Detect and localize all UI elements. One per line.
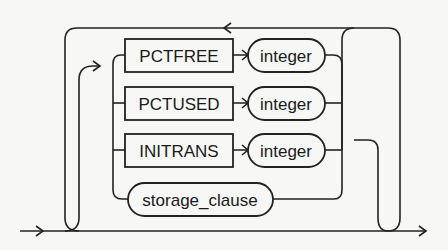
initrans-integer-label: integer: [260, 142, 312, 161]
pctfree-integer-label: integer: [260, 47, 312, 66]
syntax-diagram: PCTFREE integer PCTUSED integer INITRANS…: [0, 0, 448, 250]
choice-left-rail: [113, 55, 128, 199]
arrow-icon: [233, 50, 248, 60]
pctfree-label: PCTFREE: [139, 47, 218, 66]
storage-clause-label: storage_clause: [142, 191, 257, 210]
arrow-icon: [233, 98, 248, 108]
main-return-rail: [354, 140, 388, 231]
pctused-integer-label: integer: [260, 95, 312, 114]
choice-exit-to-main: [342, 28, 354, 150]
initrans-label: INITRANS: [139, 142, 218, 161]
arrow-icon: [233, 145, 248, 155]
choice-exit-rail: [273, 55, 342, 199]
choice-entry-rail: [65, 66, 100, 231]
pctused-label: PCTUSED: [138, 95, 219, 114]
